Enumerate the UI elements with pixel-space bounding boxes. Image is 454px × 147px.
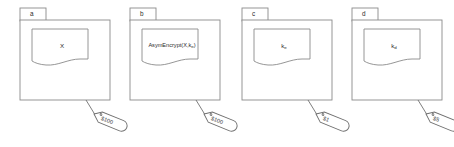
document-label: X (36, 43, 88, 49)
panel-c[interactable]: cke$1 (240, 0, 344, 147)
panel-tab-label: a (30, 11, 34, 17)
panel-tab-label: c (252, 11, 255, 17)
document-label: AsymEncrypt(X,ke) (138, 43, 206, 49)
price-tag-shape (314, 109, 351, 132)
panel-a[interactable]: aX$100 (18, 0, 122, 147)
panel-d[interactable]: dkd$5 (350, 0, 454, 147)
document-label: ke (258, 43, 310, 50)
panel-tab-label: d (362, 11, 366, 17)
document-label: kd (368, 43, 420, 50)
panel-b[interactable]: bAsymEncrypt(X,ke)$100 (128, 0, 232, 147)
price-tag-shape (424, 109, 454, 132)
panel-tab-label: b (140, 11, 144, 17)
